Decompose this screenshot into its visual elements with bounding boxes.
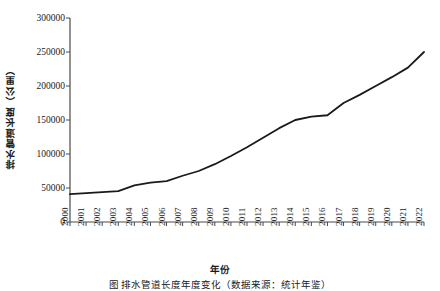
x-axis-tick-label: 2019 <box>366 207 376 226</box>
x-axis-tick-label: 2014 <box>285 207 295 226</box>
x-axis-tick-label: 2000 <box>60 207 70 226</box>
x-axis-tick-label: 2018 <box>350 207 360 226</box>
x-axis-tick-label: 2011 <box>237 208 247 226</box>
x-axis-tick-label: 2005 <box>140 207 150 226</box>
x-axis-tick-label: 2002 <box>92 207 102 226</box>
x-axis-tick-label: 2016 <box>317 207 327 226</box>
x-axis-tick-label: 2007 <box>173 207 183 226</box>
x-axis-tick-label: 2009 <box>205 207 215 226</box>
x-axis-tick-label: 2012 <box>253 207 263 226</box>
x-axis-tick-label: 2020 <box>382 207 392 226</box>
x-axis-tick-label: 2003 <box>108 207 118 226</box>
x-axis-tick-label: 2022 <box>414 207 424 226</box>
figure-caption: 图 排水管道长度年度变化（数据来源：统计年鉴） <box>0 277 440 291</box>
x-axis-tick-label: 2001 <box>76 207 86 226</box>
x-axis-tick-label: 2013 <box>269 207 279 226</box>
x-axis-tick-label: 2004 <box>124 207 134 226</box>
x-axis-label: 年份 <box>0 262 440 276</box>
x-axis-tick-label: 2021 <box>398 207 408 226</box>
x-axis-tick-label: 2015 <box>301 207 311 226</box>
x-axis-tick-label: 2006 <box>157 207 167 226</box>
x-axis-tick-label: 2008 <box>189 207 199 226</box>
x-axis-tick-label: 2010 <box>221 207 231 226</box>
x-axis-tick-label: 2017 <box>334 207 344 226</box>
